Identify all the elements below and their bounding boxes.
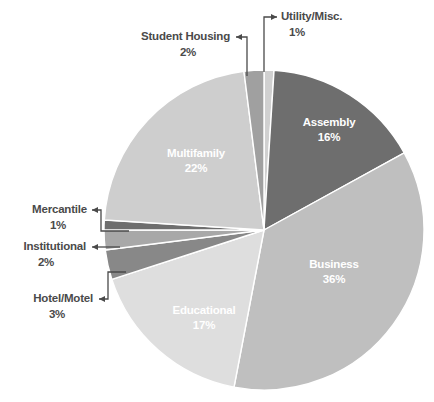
- callout-value-student-housing: 2%: [180, 46, 196, 58]
- slice-label-name-business: Business: [309, 258, 359, 270]
- leader-arrow-utility-misc: [271, 14, 277, 20]
- slice-value-educational: 17%: [193, 319, 215, 331]
- leader-arrow-hotel-motel: [99, 296, 105, 302]
- pie-chart-figure: Assembly16%Business36%Educational17%Mult…: [0, 0, 434, 402]
- leader-line-utility-misc: [264, 17, 277, 72]
- callout-label-student-housing: Student Housing: [141, 30, 230, 42]
- pie-chart-svg: Assembly16%Business36%Educational17%Mult…: [0, 0, 434, 402]
- callout-value-mercantile: 1%: [50, 219, 66, 231]
- leader-arrow-institutional: [92, 244, 98, 250]
- pie-slices-group: [104, 70, 424, 390]
- leader-arrow-mercantile: [92, 207, 98, 213]
- slice-label-name-multifamily: Multifamily: [167, 147, 226, 159]
- callout-label-hotel-motel: Hotel/Motel: [33, 292, 93, 304]
- slice-value-assembly: 16%: [318, 131, 340, 143]
- slice-value-business: 36%: [323, 273, 345, 285]
- leader-line-student-housing: [236, 37, 247, 76]
- callout-label-utility-misc: Utility/Misc.: [281, 10, 342, 22]
- leader-arrow-student-housing: [236, 34, 242, 40]
- callout-label-institutional: Institutional: [23, 240, 86, 252]
- callout-value-institutional: 2%: [38, 256, 54, 268]
- slice-label-name-educational: Educational: [173, 304, 236, 316]
- callout-label-mercantile: Mercantile: [32, 203, 87, 215]
- callout-value-hotel-motel: 3%: [49, 308, 65, 320]
- slice-label-name-assembly: Assembly: [303, 116, 357, 128]
- callout-value-utility-misc: 1%: [289, 26, 305, 38]
- slice-value-multifamily: 22%: [185, 162, 207, 174]
